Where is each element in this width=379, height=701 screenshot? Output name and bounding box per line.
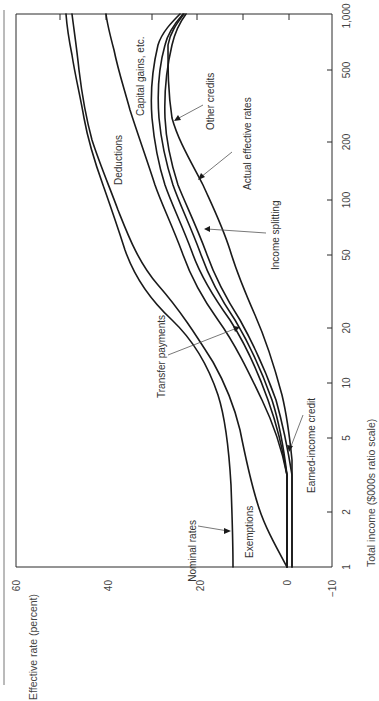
leader-other-credits bbox=[177, 105, 203, 119]
leader-nominal-rates bbox=[198, 526, 228, 531]
curve-capital-gains bbox=[151, 14, 287, 567]
arrow-income-splitting-icon bbox=[204, 226, 210, 232]
curve-exemptions bbox=[72, 14, 287, 567]
x-tick-label-500: 500 bbox=[341, 61, 352, 78]
label-other-credits: Other credits bbox=[205, 73, 216, 130]
label-transfer-payments: Transfer payments bbox=[156, 315, 167, 398]
x-tick-label-200: 200 bbox=[341, 133, 352, 150]
arrow-other-credits-icon bbox=[174, 115, 181, 121]
label-nominal-rates: Nominal rates bbox=[187, 520, 198, 582]
y-axis-title: Effective rate (percent) bbox=[27, 594, 39, 700]
y-tick-labels: 60 40 20 0 −10 bbox=[11, 580, 338, 597]
curve-income-splitting bbox=[165, 14, 292, 567]
x-axis-title: Total income ($000s ratio scale) bbox=[365, 419, 377, 567]
x-tick-labels: 1 2 5 10 20 50 100 200 500 1,000 bbox=[341, 3, 352, 570]
x-tick-label-2: 2 bbox=[341, 509, 352, 515]
x-tick-label-20: 20 bbox=[341, 322, 352, 334]
y-tick-label-60: 60 bbox=[11, 580, 22, 592]
x-tick-label-1: 1 bbox=[341, 564, 352, 570]
effective-tax-rate-chart: 1 2 5 10 20 50 100 200 500 1,000 Total i… bbox=[0, 0, 379, 701]
x-tick-label-1000: 1,000 bbox=[341, 3, 352, 28]
x-tick-label-50: 50 bbox=[341, 249, 352, 261]
y-tick-label-40: 40 bbox=[103, 580, 114, 592]
label-capital-gains: Capital gains, etc. bbox=[135, 37, 146, 117]
label-actual-effective-rates: Actual effective rates bbox=[242, 97, 253, 190]
x-tick-label-100: 100 bbox=[341, 191, 352, 208]
leader-earned-income-credit bbox=[290, 415, 303, 449]
plot-frame bbox=[16, 14, 332, 567]
curve-actual-effective-rates bbox=[168, 14, 292, 567]
x-tick-label-10: 10 bbox=[341, 377, 352, 389]
leader-actual-effective-rates bbox=[201, 152, 232, 177]
curves bbox=[66, 14, 292, 567]
label-earned-income-credit: Earned-income credit bbox=[306, 398, 317, 493]
label-exemptions: Exemptions bbox=[244, 506, 255, 558]
leader-income-splitting bbox=[207, 229, 266, 233]
label-income-splitting: Income splitting bbox=[270, 201, 281, 270]
leader-transfer-payments bbox=[168, 328, 237, 355]
y-tick-label-0: 0 bbox=[282, 580, 293, 586]
label-deductions: Deductions bbox=[113, 135, 124, 185]
y-tick-label-minus10: −10 bbox=[327, 580, 338, 597]
arrow-nominal-rates-icon bbox=[224, 528, 231, 534]
x-tick-label-5: 5 bbox=[341, 435, 352, 441]
curve-deductions bbox=[106, 14, 287, 567]
